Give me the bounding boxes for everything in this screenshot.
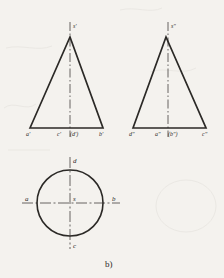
side-view-triangle-outline [133, 37, 206, 128]
label-c-bottom: c [73, 243, 76, 250]
label-b-right: b [112, 196, 116, 203]
label-a-double-prime: a" [155, 131, 161, 137]
front-view-group [30, 22, 103, 137]
label-c-double-prime: c" [202, 131, 207, 137]
label-a-prime: a' [26, 131, 30, 137]
label-b-prime: b' [99, 131, 103, 137]
projection-drawing [0, 0, 224, 278]
label-b-double-prime-hidden: (b") [168, 131, 178, 137]
side-view-group [133, 22, 206, 137]
label-c-prime: c' [57, 131, 61, 137]
front-view-triangle-outline [30, 37, 103, 128]
label-s-center: s [73, 196, 76, 203]
label-d-double-prime: d" [129, 131, 135, 137]
figure-caption: b) [105, 259, 113, 269]
label-s-prime: s' [73, 23, 77, 29]
paper-artifacts [4, 8, 216, 232]
label-s-double-prime: s" [171, 23, 176, 29]
top-view-group [22, 157, 120, 249]
label-d-top: d [73, 158, 77, 165]
label-a-left: a [25, 196, 29, 203]
label-d-prime-hidden: (d') [70, 131, 78, 137]
